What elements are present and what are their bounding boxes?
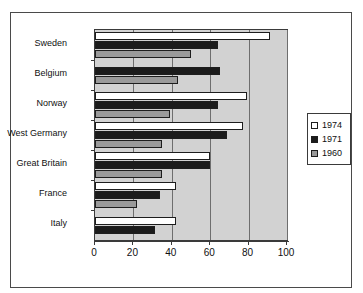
x-tick-label-0: 0 (91, 247, 97, 258)
y-tick-label-france: France (0, 188, 67, 198)
x-tick-label-100: 100 (278, 247, 295, 258)
x-tick (132, 241, 133, 245)
bar-belgium-1971 (95, 67, 220, 75)
x-tick-label-20: 20 (127, 247, 138, 258)
bar-group (95, 90, 287, 120)
y-tick (91, 60, 95, 61)
x-axis (94, 241, 289, 242)
y-axis (94, 29, 95, 242)
legend-label-1974: 1974 (322, 120, 342, 130)
y-tick-label-italy: Italy (0, 218, 67, 228)
plot-area (94, 29, 288, 241)
legend-item-1960[interactable]: 1960 (311, 146, 347, 160)
x-tick-label-80: 80 (242, 247, 253, 258)
bar-great-britain-1974 (95, 152, 210, 160)
bar-belgium-1960 (95, 76, 178, 84)
bar-group (95, 180, 287, 210)
bar-sweden-1960 (95, 50, 191, 58)
bar-norway-1960 (95, 110, 170, 118)
bar-group (95, 210, 287, 240)
y-tick-label-sweden: Sweden (0, 38, 67, 48)
bar-group (95, 30, 287, 60)
y-tick-label-belgium: Belgium (0, 68, 67, 78)
bar-norway-1971 (95, 101, 218, 109)
y-tick (91, 210, 95, 211)
bar-west-germany-1971 (95, 131, 227, 139)
y-tick-label-west-germany: West Germany (0, 128, 67, 138)
bar-west-germany-1960 (95, 140, 162, 148)
bar-group (95, 60, 287, 90)
bar-group (95, 150, 287, 180)
y-tick (91, 90, 95, 91)
bar-sweden-1974 (95, 32, 270, 40)
bar-france-1971 (95, 191, 160, 199)
legend-label-1971: 1971 (322, 134, 342, 144)
legend-swatch-1960 (311, 150, 318, 157)
y-tick (91, 150, 95, 151)
x-tick (171, 241, 172, 245)
bar-france-1974 (95, 182, 176, 190)
bar-italy-1971 (95, 226, 155, 234)
legend-item-1974[interactable]: 1974 (311, 118, 347, 132)
chart-legend: 197419711960 (307, 113, 351, 165)
bar-norway-1974 (95, 92, 247, 100)
legend-label-1960: 1960 (322, 148, 342, 158)
bar-great-britain-1960 (95, 170, 162, 178)
y-tick (91, 180, 95, 181)
chart-figure: 020406080100 SwedenBelgiumNorwayWest Ger… (10, 12, 352, 288)
legend-swatch-1974 (311, 122, 318, 129)
x-tick (248, 241, 249, 245)
bar-italy-1974 (95, 217, 176, 225)
x-tick (94, 241, 95, 245)
bar-great-britain-1971 (95, 161, 210, 169)
gridline (287, 30, 288, 240)
bar-west-germany-1974 (95, 122, 243, 130)
x-tick-label-60: 60 (204, 247, 215, 258)
legend-item-1971[interactable]: 1971 (311, 132, 347, 146)
y-tick (91, 120, 95, 121)
bar-group (95, 120, 287, 150)
y-tick-label-norway: Norway (0, 98, 67, 108)
bar-sweden-1971 (95, 41, 218, 49)
x-tick (286, 241, 287, 245)
bar-france-1960 (95, 200, 137, 208)
x-tick (209, 241, 210, 245)
y-tick-label-great-britain: Great Britain (0, 158, 67, 168)
legend-swatch-1971 (311, 136, 318, 143)
x-tick-label-40: 40 (165, 247, 176, 258)
